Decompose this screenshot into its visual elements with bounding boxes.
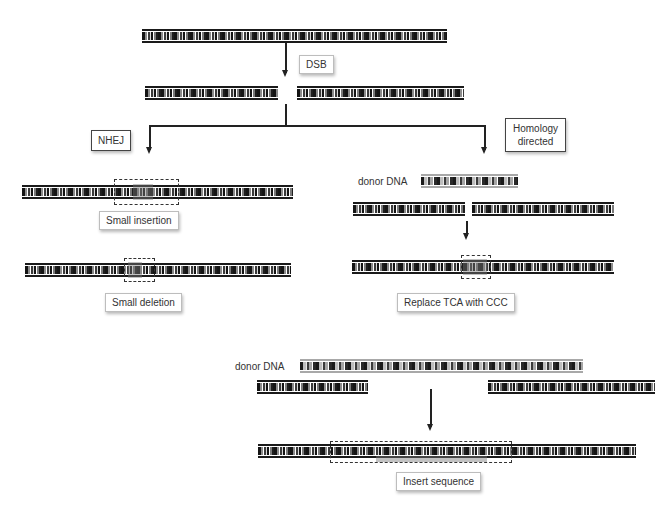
donor-homology-segment [455,174,482,188]
small-insertion-label: Small insertion [99,211,179,230]
donor-dna-label-1: donor DNA [358,176,407,187]
deletion-dashed-box [124,258,155,282]
insert-sequence-label: Insert sequence [396,472,481,491]
small-deletion-label: Small deletion [105,293,182,312]
broken-dna-left [145,86,278,100]
broken-dna-right [297,86,464,100]
arrowhead-icon [282,70,288,77]
homology-line2: directed [513,135,558,148]
nhej-label: NHEJ [91,130,131,151]
arrowhead-icon [463,233,469,240]
arrowhead-icon [481,147,487,154]
arrow-dsb [285,43,287,73]
branch-horizontal [149,125,485,127]
arrowhead-icon [427,424,433,431]
donor-insert-segment [402,359,487,373]
hdr-broken-left [353,202,465,216]
donor-dna-label-2: donor DNA [235,361,284,372]
insert-broken-right [488,380,655,394]
arrowhead-icon [146,147,152,154]
homology-directed-label: Homology directed [505,118,566,152]
insertion-dashed-box [114,179,179,205]
donor-dna-strand-2 [300,359,583,373]
branch-stem [285,104,287,126]
donor-dna-strand-1 [421,174,518,188]
intact-dna-strand [142,29,447,43]
replace-label: Replace TCA with CCC [397,293,515,312]
insert-broken-left [257,380,368,394]
deletion-dna-strand [25,263,291,277]
homology-line1: Homology [513,122,558,135]
arrow-insert [430,389,432,427]
insert-dashed-box [330,441,512,463]
replace-dashed-box [461,255,491,279]
hdr-broken-right [472,202,614,216]
dsb-label: DSB [299,55,334,74]
